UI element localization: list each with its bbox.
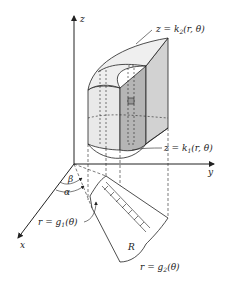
angle-beta-label: β <box>67 174 73 184</box>
bottom-surface-label: z = k1(r, θ) <box>163 143 213 154</box>
x-axis-label: x <box>20 240 25 250</box>
volume-element <box>128 98 134 104</box>
angle-alpha-label: α <box>64 187 70 197</box>
z-axis-label: z <box>79 14 85 24</box>
region-label: R <box>127 242 135 252</box>
inner-curve-label: r = g1(θ) <box>38 217 78 228</box>
solid-front-face <box>120 66 146 151</box>
solid-region-diagram: z y x z = k2(r, θ) z = k1(r, θ) r = g1(θ… <box>0 0 228 289</box>
top-surface-label: z = k2(r, θ) <box>155 24 205 35</box>
solid-left-face <box>88 86 120 150</box>
outer-curve-label: r = g2(θ) <box>140 262 180 273</box>
y-axis-label: y <box>207 167 214 177</box>
